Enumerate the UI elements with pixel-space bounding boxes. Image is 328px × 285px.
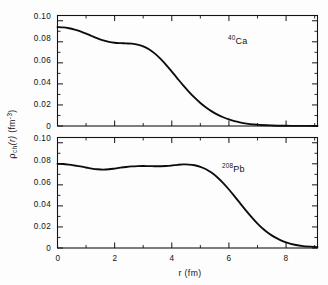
panel-ca40-frame [58,16,318,127]
y-tick-label: 0.02 [34,100,51,109]
y-tick-label: 0.10 [34,12,51,21]
curve-pb208 [58,164,318,247]
y-tick-label: 0 [46,122,51,131]
x-tick-label: 2 [113,254,118,263]
svg-text:ρch(r) (fm-3): ρch(r) (fm-3) [6,109,18,158]
y-title-unit-open: (fm [7,119,17,133]
svg-text:208Pb: 208Pb [222,162,245,174]
panel-pb208-y-labels: 0.10 0.08 0.06 0.04 0.02 0 [34,134,51,253]
x-tick-label: 6 [227,254,232,263]
y-title-unit-close: ) [7,109,17,112]
annotation-superscript-pb: 208 [222,162,234,169]
figure-container: 0.10 0.08 0.06 0.04 0.02 0 40Ca 0.10 0.0… [0,0,328,285]
y-title-sub: ch [11,145,18,153]
y-tick-label: 0.06 [34,56,51,65]
panel-pb208-ticks [58,138,318,249]
annotation-element-pb: Pb [233,164,244,174]
panel-ca40-y-labels: 0.10 0.08 0.06 0.04 0.02 0 [34,12,51,131]
y-axis-title: ρch(r) (fm-3) [6,109,18,158]
curve-ca40 [58,27,318,126]
x-tick-label: 8 [284,254,289,263]
y-title-arg: (r) [7,136,17,146]
x-axis-title: r (fm) [179,268,202,278]
svg-text:40Ca: 40Ca [228,34,247,46]
annotation-element-ca: Ca [236,36,248,46]
x-axis-labels: 0 2 4 6 8 [56,254,289,263]
y-tick-label: 0.06 [34,178,51,187]
panel-pb208-annotation: 208Pb [222,162,245,174]
y-tick-label: 0.04 [34,78,51,87]
panel-ca40-ticks [58,16,318,127]
y-tick-label: 0 [46,244,51,253]
charge-density-plot: 0.10 0.08 0.06 0.04 0.02 0 40Ca 0.10 0.0… [0,0,328,285]
y-tick-label: 0.10 [34,134,51,143]
panel-ca40-annotation: 40Ca [228,34,247,46]
y-tick-label: 0.02 [34,222,51,231]
y-tick-label: 0.08 [34,34,51,43]
x-tick-label: 4 [170,254,175,263]
y-tick-label: 0.08 [34,156,51,165]
panel-pb208-frame [58,138,318,249]
y-tick-label: 0.04 [34,200,51,209]
x-tick-label: 0 [56,254,61,263]
